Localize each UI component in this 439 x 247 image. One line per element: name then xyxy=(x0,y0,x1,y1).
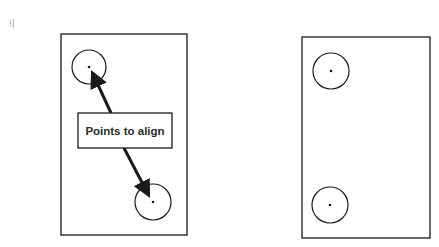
label-callout: Points to align xyxy=(78,113,172,148)
center-point-icon xyxy=(152,201,155,204)
center-point-icon xyxy=(88,66,91,69)
left-bottom-hole xyxy=(135,184,171,220)
label-text: Points to align xyxy=(85,125,164,137)
arrow-down-icon xyxy=(124,148,148,194)
right-bottom-hole xyxy=(312,187,348,223)
right-panel-border xyxy=(302,37,430,238)
center-point-icon xyxy=(329,204,332,207)
corner-mark: ⁞| xyxy=(9,18,15,28)
left-panel: Points to align xyxy=(61,34,187,235)
alignment-diagram: ⁞| Points to align xyxy=(0,0,439,247)
center-point-icon xyxy=(330,70,333,73)
arrow-up-icon xyxy=(93,74,111,113)
right-top-hole xyxy=(313,53,349,89)
right-panel xyxy=(302,37,430,238)
left-top-hole xyxy=(72,50,106,84)
